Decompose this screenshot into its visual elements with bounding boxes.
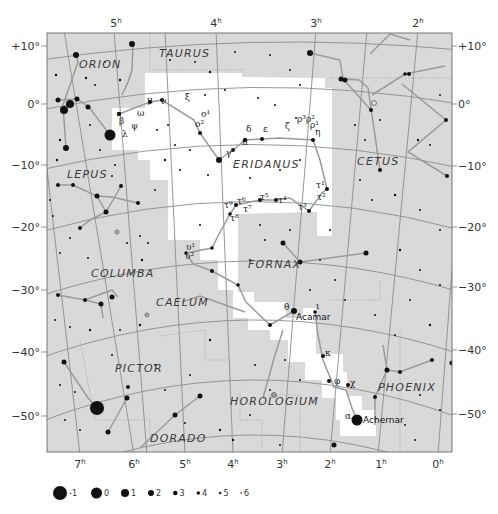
ra-label: 1h: [375, 458, 386, 471]
ra-label: 3h: [276, 458, 287, 471]
star-chart: 5h4h3h2h 7h6h5h4h3h2h1h0h +10°0°−10°−20°…: [0, 0, 498, 514]
dec-label: −10°: [458, 160, 487, 173]
constellation-label: PICTOR: [115, 362, 163, 375]
ra-label: 7h: [74, 458, 85, 471]
star-designation: χ: [350, 378, 356, 388]
star-designation: ι: [316, 301, 320, 311]
star-designation: ξ: [185, 92, 190, 102]
magnitude-label: -1: [69, 489, 77, 498]
magnitude-dot-icon: [91, 488, 102, 499]
ra-labels-top: 5h4h3h2h: [110, 17, 423, 30]
star-designation: ε: [263, 124, 268, 134]
magnitude-dot-icon: [53, 486, 67, 500]
star-designation: ψ: [131, 121, 138, 131]
star-designation: τ²: [317, 192, 326, 202]
magnitude-label: 2: [156, 489, 161, 498]
constellation-label: TAURUS: [159, 47, 210, 60]
star-designation: α: [345, 411, 351, 421]
star-designation: τ³: [298, 202, 307, 212]
star-designation: θ: [284, 302, 289, 312]
dec-label: −40°: [11, 346, 40, 359]
constellation-label: LEPUS: [67, 168, 108, 181]
constellation-label: PHOENIX: [378, 381, 436, 394]
magnitude-dot-icon: [219, 492, 221, 494]
magnitude-legend: -10123456: [53, 486, 249, 500]
dec-label: −10°: [11, 159, 40, 172]
star-designation: ν: [161, 96, 166, 106]
ra-label: 4h: [210, 17, 221, 30]
ra-label: 3h: [310, 17, 321, 30]
ra-label: 5h: [110, 17, 121, 30]
magnitude-label: 4: [202, 489, 207, 498]
magnitude-dot-icon: [148, 490, 154, 496]
constellation-label: ORION: [79, 58, 121, 71]
ra-labels-bottom: 7h6h5h4h3h2h1h0h: [74, 458, 443, 471]
dec-label: −20°: [11, 221, 40, 234]
magnitude-label: 1: [131, 489, 136, 498]
ra-label: 5h: [179, 458, 190, 471]
dec-label: −50°: [11, 410, 40, 423]
star-designation: μ: [147, 95, 153, 105]
star-designation: τ⁴: [278, 195, 287, 205]
dec-label: 0°: [458, 98, 471, 111]
ra-label: 2h: [412, 17, 423, 30]
constellation-label: COLUMBA: [91, 267, 154, 280]
dec-label: −50°: [458, 408, 487, 421]
dec-labels-right: +10°0°−10°−20°−30°−40°−50°: [452, 40, 487, 421]
dec-label: −20°: [458, 221, 487, 234]
magnitude-dot-icon: [197, 491, 200, 494]
star-designation: π: [242, 137, 248, 147]
star-designation: τ⁸: [230, 213, 239, 223]
star-designation: δ: [246, 124, 251, 134]
magnitude-label: 3: [180, 489, 185, 498]
ra-label: 6h: [128, 458, 139, 471]
star-designation: γ: [226, 148, 231, 158]
magnitude-label: 5: [223, 489, 228, 498]
constellation-label: DORADO: [150, 432, 207, 445]
star-designation: φ: [334, 376, 340, 386]
magnitude-dot-icon: [173, 491, 178, 496]
magnitude-dot-icon: [240, 492, 242, 494]
dec-labels-left: +10°0°−10°−20°−30°−40°−50°: [11, 40, 47, 423]
dec-label: 0°: [28, 98, 41, 111]
constellation-label: ERIDANUS: [233, 158, 300, 171]
star-designation: τ⁵: [260, 192, 269, 202]
constellation-label: FORNAX: [248, 258, 301, 271]
dec-label: +10°: [11, 40, 40, 53]
star-name: Acamar: [296, 312, 331, 322]
star-designation: υ²: [185, 251, 194, 261]
constellation-label: CETUS: [357, 155, 399, 168]
star-designation: ο¹: [201, 109, 210, 119]
star-designation: ω: [137, 108, 144, 118]
dec-label: −40°: [458, 344, 487, 357]
dec-label: +10°: [458, 40, 487, 53]
dec-label: −30°: [458, 281, 487, 294]
ra-label: 0h: [432, 458, 443, 471]
star-designation: ο²: [195, 119, 204, 129]
star-designation: κ: [325, 348, 331, 358]
star-designation: τ¹: [316, 180, 325, 190]
star-designation: τ⁷: [243, 204, 252, 214]
star-name: Achernar: [363, 415, 404, 425]
star-designation: λ: [122, 129, 128, 139]
constellation-label: CAELUM: [156, 296, 209, 309]
star-designation: β: [119, 116, 124, 126]
star-designation: ζ: [285, 121, 290, 131]
magnitude-dot-icon: [121, 489, 129, 497]
magnitude-label: 0: [104, 489, 109, 498]
magnitude-label: 6: [244, 489, 249, 498]
dec-label: −30°: [11, 284, 40, 297]
ra-label: 4h: [227, 458, 238, 471]
star-designation: τ⁹: [224, 200, 233, 210]
constellation-label: HOROLOGIUM: [230, 395, 319, 408]
ra-label: 2h: [324, 458, 335, 471]
star-designation: η: [315, 127, 320, 137]
